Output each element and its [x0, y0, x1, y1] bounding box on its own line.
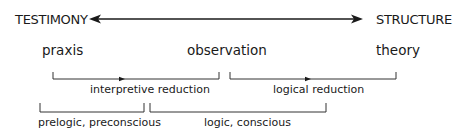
interpretive-reduction-label: interpretive reduction — [90, 84, 210, 95]
testimony-label: TESTIMONY — [15, 13, 88, 26]
interpretive-reduction-bracket — [53, 72, 219, 81]
prelogic-preconscious-label: prelogic, preconscious — [38, 117, 161, 128]
logical-reduction-label: logical reduction — [273, 84, 364, 95]
logical-reduction-bracket — [230, 72, 396, 81]
testimony-structure-arrow — [89, 15, 363, 24]
term-theory: theory — [376, 44, 420, 58]
prelogic-bracket — [40, 103, 144, 112]
logic-bracket — [150, 103, 326, 112]
term-observation: observation — [187, 44, 267, 58]
structure-label: STRUCTURE — [376, 13, 452, 26]
bracket-arrow-icon — [305, 77, 311, 81]
term-praxis: praxis — [42, 44, 83, 58]
logic-conscious-label: logic, conscious — [204, 117, 291, 128]
bracket-arrow-icon — [119, 77, 125, 81]
